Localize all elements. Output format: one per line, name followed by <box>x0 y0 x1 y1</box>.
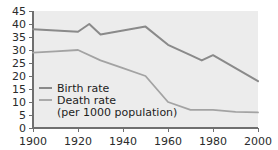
x-tick-label-1940: 1940 <box>109 135 137 148</box>
legend-units-note: (per 1000 population) <box>57 106 177 119</box>
x-tick-label-1900: 1900 <box>19 135 47 148</box>
x-axis-tick-labels: 190019201940196019802000 <box>19 135 272 148</box>
y-tick-label-5: 5 <box>19 109 26 122</box>
y-tick-label-30: 30 <box>12 44 26 57</box>
y-axis-tick-labels: 051015202530354045 <box>12 5 26 135</box>
x-axis-tick-marks <box>33 128 258 132</box>
x-tick-label-1980: 1980 <box>199 135 227 148</box>
y-tick-label-45: 45 <box>12 5 26 18</box>
birth-death-rate-line-chart: 051015202530354045 190019201940196019802… <box>0 0 278 150</box>
y-tick-label-20: 20 <box>12 70 26 83</box>
y-tick-label-25: 25 <box>12 57 26 70</box>
y-tick-label-0: 0 <box>19 122 26 135</box>
y-tick-label-40: 40 <box>12 18 26 31</box>
y-tick-label-35: 35 <box>12 31 26 44</box>
x-tick-label-2000: 2000 <box>244 135 272 148</box>
y-tick-label-10: 10 <box>12 96 26 109</box>
y-tick-label-15: 15 <box>12 83 26 96</box>
chart-canvas: 051015202530354045 190019201940196019802… <box>0 0 278 150</box>
x-tick-label-1920: 1920 <box>64 135 92 148</box>
x-tick-label-1960: 1960 <box>154 135 182 148</box>
